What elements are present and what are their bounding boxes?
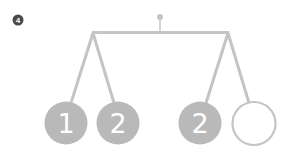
ball-right-1-label: 2 (191, 108, 208, 139)
hanger (157, 14, 163, 32)
ball-right-2-empty-circle (233, 102, 276, 145)
ball-left-2: 2 (97, 102, 140, 145)
string-right-1 (206, 33, 228, 103)
balance-mobile-diagram: 4 1 2 2 (0, 0, 294, 159)
ball-right-1: 2 (179, 102, 222, 145)
string-right-2 (228, 33, 249, 103)
ball-left-2-label: 2 (109, 108, 126, 139)
string-left-2 (93, 33, 114, 103)
ball-left-1-label: 1 (57, 108, 74, 139)
left-arm-strings (71, 33, 114, 103)
ball-left-1: 1 (45, 102, 88, 145)
string-left-1 (71, 33, 93, 103)
ball-right-2-empty (233, 102, 276, 145)
right-arm-strings (206, 33, 249, 103)
step-badge-number: 4 (16, 16, 21, 25)
step-badge: 4 (13, 15, 24, 26)
